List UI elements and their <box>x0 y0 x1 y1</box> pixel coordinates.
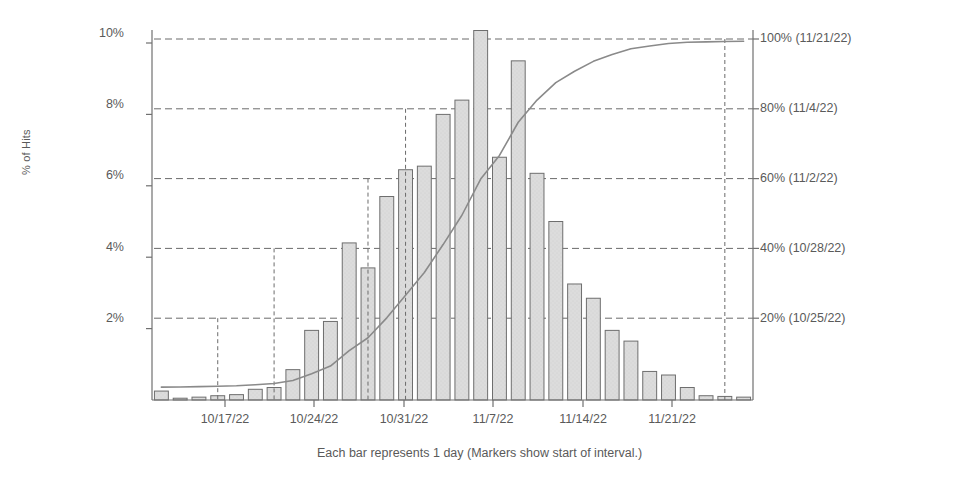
bar <box>474 31 488 401</box>
bar <box>380 197 394 400</box>
bar <box>286 370 300 400</box>
bar <box>680 388 694 401</box>
droplines <box>218 39 725 400</box>
cumulative-line-series <box>161 41 743 387</box>
bar <box>323 321 337 400</box>
bar <box>154 391 168 400</box>
bar <box>230 395 244 400</box>
gridlines <box>154 39 753 318</box>
bar <box>549 222 563 401</box>
bar <box>643 371 657 400</box>
chart-plot-area <box>0 0 959 485</box>
bar <box>248 389 262 400</box>
bar <box>305 330 319 400</box>
bar <box>586 298 600 400</box>
bar <box>624 341 638 400</box>
chart-root: % of Hits 2% 4% 6% 8% 10% 100% (11/21/22… <box>0 0 959 485</box>
axes <box>146 30 759 407</box>
bar <box>342 243 356 400</box>
bar <box>436 114 450 400</box>
bar <box>568 284 582 400</box>
bar <box>493 157 507 400</box>
bar <box>511 61 525 400</box>
cumulative-line <box>161 41 743 387</box>
bar <box>605 330 619 400</box>
bar <box>699 396 713 400</box>
bar <box>417 166 431 400</box>
bar <box>455 100 469 400</box>
bar-series <box>154 31 750 401</box>
bar <box>530 173 544 400</box>
bar <box>662 375 676 400</box>
